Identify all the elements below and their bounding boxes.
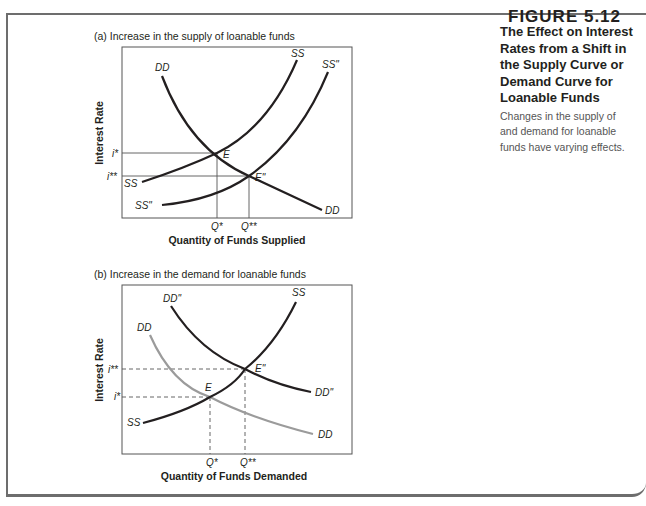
panel-a-chart: DD DD SS SS SS" SS" E E" i* i** Q* Q** Q…: [93, 47, 352, 246]
label-e: E: [223, 149, 230, 160]
label-q-star2: Q**: [241, 221, 258, 232]
label-dd2-right: DD": [315, 387, 333, 398]
label-dd-bottom: DD: [325, 205, 339, 216]
label-ss2-left: SS": [135, 200, 152, 211]
label-i-star: i*: [114, 391, 121, 402]
label-i-star2: i**: [108, 364, 119, 375]
label-e2: E": [255, 172, 266, 183]
label-ss-left: SS: [124, 178, 138, 189]
panel-a-x-axis-title: Quantity of Funds Supplied: [168, 234, 305, 246]
label-dd-right: DD: [318, 429, 332, 440]
label-e2: E": [255, 363, 266, 374]
label-q-star2: Q**: [240, 457, 257, 468]
label-i-star: i*: [112, 148, 119, 159]
label-ss-top: SS: [292, 287, 306, 298]
panel-a-y-axis-title: Interest Rate: [93, 101, 105, 165]
label-ss-top: SS: [291, 48, 305, 59]
label-dd2-top: DD": [163, 293, 181, 304]
label-q-star: Q*: [211, 221, 224, 232]
label-dd-top: DD: [155, 62, 169, 73]
panel-b-x-axis-title: Quantity of Funds Demanded: [161, 470, 307, 482]
label-q-star: Q*: [206, 457, 219, 468]
panel-b-chart: DD" DD" DD DD SS SS E E" i** i* Q* Q** Q…: [93, 285, 352, 482]
label-ss2-top: SS": [322, 59, 339, 70]
label-i-star2: i**: [107, 171, 118, 182]
label-dd-top: DD: [137, 322, 151, 333]
label-e: E: [205, 382, 212, 393]
panel-b-y-axis-title: Interest Rate: [93, 338, 105, 402]
label-ss-left: SS: [127, 417, 141, 428]
